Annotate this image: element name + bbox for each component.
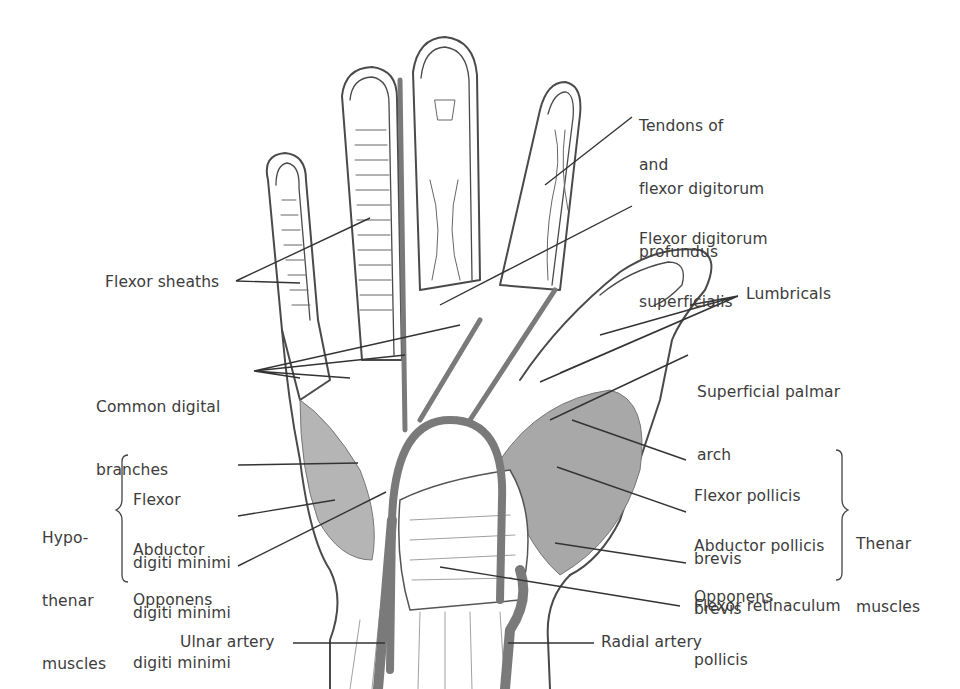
hypothenar-muscle <box>300 400 374 560</box>
label-flexor-retinaculum: Flexor retinaculum <box>694 596 841 617</box>
label-thenar-group: Thenar muscles <box>856 492 920 639</box>
little-finger-outline <box>267 153 330 400</box>
leader-flexor-sheaths <box>236 218 370 283</box>
label-op: Opponens pollicis <box>694 545 773 689</box>
index-finger-outline <box>500 82 580 290</box>
leader-fds <box>440 206 632 305</box>
label-lumbricals: Lumbricals <box>746 284 831 305</box>
label-odm: Opponens digiti minimi <box>133 548 231 689</box>
label-flexor-sheaths: Flexor sheaths <box>105 272 219 293</box>
label-radial-artery: Radial artery <box>601 632 702 653</box>
label-and: and <box>639 155 668 176</box>
label-ulnar-artery: Ulnar artery <box>180 632 275 653</box>
label-fds: Flexor digitorum superficialis <box>639 187 768 334</box>
label-hypothenar-group: Hypo- thenar muscles <box>42 486 106 689</box>
